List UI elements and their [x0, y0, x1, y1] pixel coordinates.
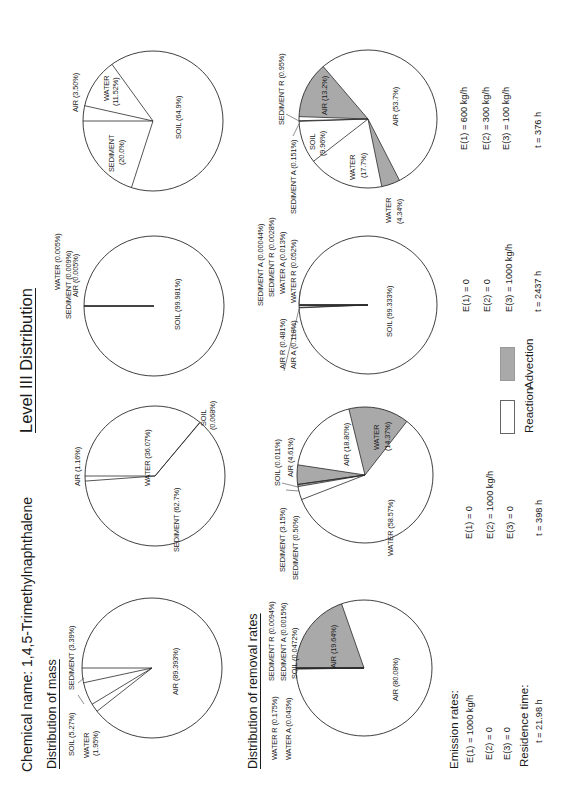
- emission-value: E(1) = 0: [465, 506, 474, 539]
- pie-label: WATER: [373, 425, 380, 450]
- pie-label: (14.37%): [384, 422, 391, 451]
- pie-label: (4.34%): [396, 199, 403, 224]
- pie-label: WATER: [103, 76, 110, 101]
- pie-label: WATER: [83, 733, 90, 758]
- pie-label: SOIL (0.0472%): [291, 628, 298, 679]
- emission-value: E(1) = 1000 kg/h: [466, 695, 475, 763]
- pie-label: SEDIMENT R (0.0028%): [268, 217, 275, 297]
- pie-label: (1.95%): [92, 731, 99, 756]
- pie-label: SEDIMENT: [108, 135, 115, 172]
- emission-value: E(3) = 0: [503, 727, 512, 760]
- pie-label: (20.0%): [118, 140, 125, 165]
- leader-line: [78, 695, 84, 704]
- emission-value: E(3) = 0: [506, 506, 515, 539]
- pie-label: (0.068%): [209, 401, 216, 430]
- leader-line: [286, 490, 299, 491]
- pie-label: AIR (18.80%): [343, 423, 350, 466]
- pie-label: SEDIMENT (62.7%): [173, 488, 180, 552]
- residence-time-value: t = 2437 h: [534, 271, 543, 312]
- page-title: Level III Distribution: [18, 288, 35, 433]
- pie-label: AIR (89.393%): [172, 648, 179, 695]
- pie-chart: [83, 51, 223, 191]
- pie-label: (17.7%): [360, 153, 367, 178]
- pie-chart: [296, 600, 432, 736]
- pie-label: AIR R (0.481%): [279, 319, 286, 369]
- section-mass-heading: Distribution of mass: [46, 659, 59, 769]
- pie-chart: [82, 598, 222, 738]
- legend-reaction-swatch: [500, 400, 515, 434]
- emission-value: E(3) = 100 kg/h: [502, 87, 511, 150]
- leader-line: [286, 114, 299, 121]
- pie-label: SEDIMENT R (0.95%): [278, 53, 285, 125]
- pie-label: SOIL: [309, 134, 316, 150]
- residence-time-value: t = 21.98 h: [535, 699, 544, 743]
- emission-value: E(2) = 300 kg/h: [482, 87, 491, 150]
- pie-chart: [299, 50, 437, 188]
- pie-label: WATER R (0.175%): [271, 696, 278, 760]
- pie-label: SEDIMENT A (0.151%): [290, 140, 297, 214]
- pie-label: WATER (36.07%): [144, 429, 151, 486]
- pie-label: AIR (13.2%): [321, 76, 328, 115]
- emission-value: E(2) = 0: [485, 727, 494, 760]
- pie-label: SOIL (5.27%): [68, 713, 75, 756]
- legend-advection-label: Advection: [524, 338, 536, 389]
- pie-label: SOIL (64.9%): [175, 96, 182, 139]
- chemical-name: Chemical name: 1,4,5-Trimethylnaphthalen…: [20, 497, 34, 772]
- pie-label: SOIL (99.333%): [386, 286, 393, 337]
- pie-label: (9.96%): [319, 131, 326, 156]
- pie-chart: [297, 407, 433, 543]
- pie-label: SEDIMENT R (0.0094%): [268, 601, 275, 681]
- legend-advection-swatch: [500, 347, 515, 381]
- emission-rates-heading: Emission rates:: [449, 690, 461, 769]
- pie-label: SEDIMENT (0.50%): [292, 516, 299, 580]
- pie-label: WATER: [349, 155, 356, 180]
- pie-label: SEDIMENT A (0.0015%): [280, 603, 287, 681]
- pie-chart: [84, 236, 224, 376]
- pie-label: SOIL (0.011%): [274, 439, 281, 486]
- leader-line: [282, 483, 298, 487]
- emission-value: E(1) = 600 kg/h: [460, 87, 469, 150]
- legend-reaction-label: Reaction: [524, 388, 536, 433]
- emission-value: E(3) = 1000 kg/h: [505, 244, 514, 312]
- residence-time-value: t = 376 h: [534, 112, 543, 148]
- pie-label: AIR (3.50%): [72, 73, 79, 112]
- emission-value: E(2) = 1000 kg/h: [486, 471, 495, 539]
- pie-label: SEDIMENT A (0.00044%): [257, 224, 264, 306]
- pie-label: SEDIMENT (3.15%): [279, 508, 286, 572]
- pie-chart: [299, 236, 437, 374]
- pie-label: (11.52%): [112, 77, 119, 106]
- leader-line: [293, 124, 299, 136]
- pie-label: SEDIMENT (3.39%): [68, 626, 75, 690]
- residence-time-value: t = 398 h: [535, 500, 544, 536]
- emission-value: E(1) = 0: [462, 279, 471, 312]
- pie-label: AIR (19.64%): [330, 625, 337, 668]
- pie-label: WATER (0.005%): [54, 233, 61, 290]
- section-removal-heading: Distribution of removal rates: [247, 613, 260, 769]
- pie-label: SOIL: [200, 410, 207, 426]
- level-iii-distribution-page: Chemical name: 1,4,5-Trimethylnaphthalen…: [0, 0, 567, 791]
- pie-label: AIR A (0.118%): [290, 320, 297, 369]
- pie-label: WATER A (0.013%): [279, 232, 286, 294]
- pie-chart: [85, 406, 225, 546]
- pie-label: AIR (4.61%): [287, 438, 294, 477]
- pie-label: WATER R (0.052%): [290, 239, 297, 303]
- pie-label: WATER A (0.043%): [285, 698, 292, 760]
- pie-label: AIR (1.16%): [74, 447, 81, 486]
- emission-value: E(2) = 0: [483, 279, 492, 312]
- pie-label: SOIL (99.981%): [174, 279, 181, 330]
- pie-label: WATER (58.57%): [387, 499, 394, 556]
- pie-label: AIR (80.08%): [392, 658, 399, 701]
- pie-label: WATER: [385, 198, 392, 223]
- pie-label: AIR (53.7%): [392, 87, 399, 126]
- residence-time-heading: Residence time:: [519, 685, 531, 767]
- pie-label: AIR (0.005%): [72, 254, 79, 297]
